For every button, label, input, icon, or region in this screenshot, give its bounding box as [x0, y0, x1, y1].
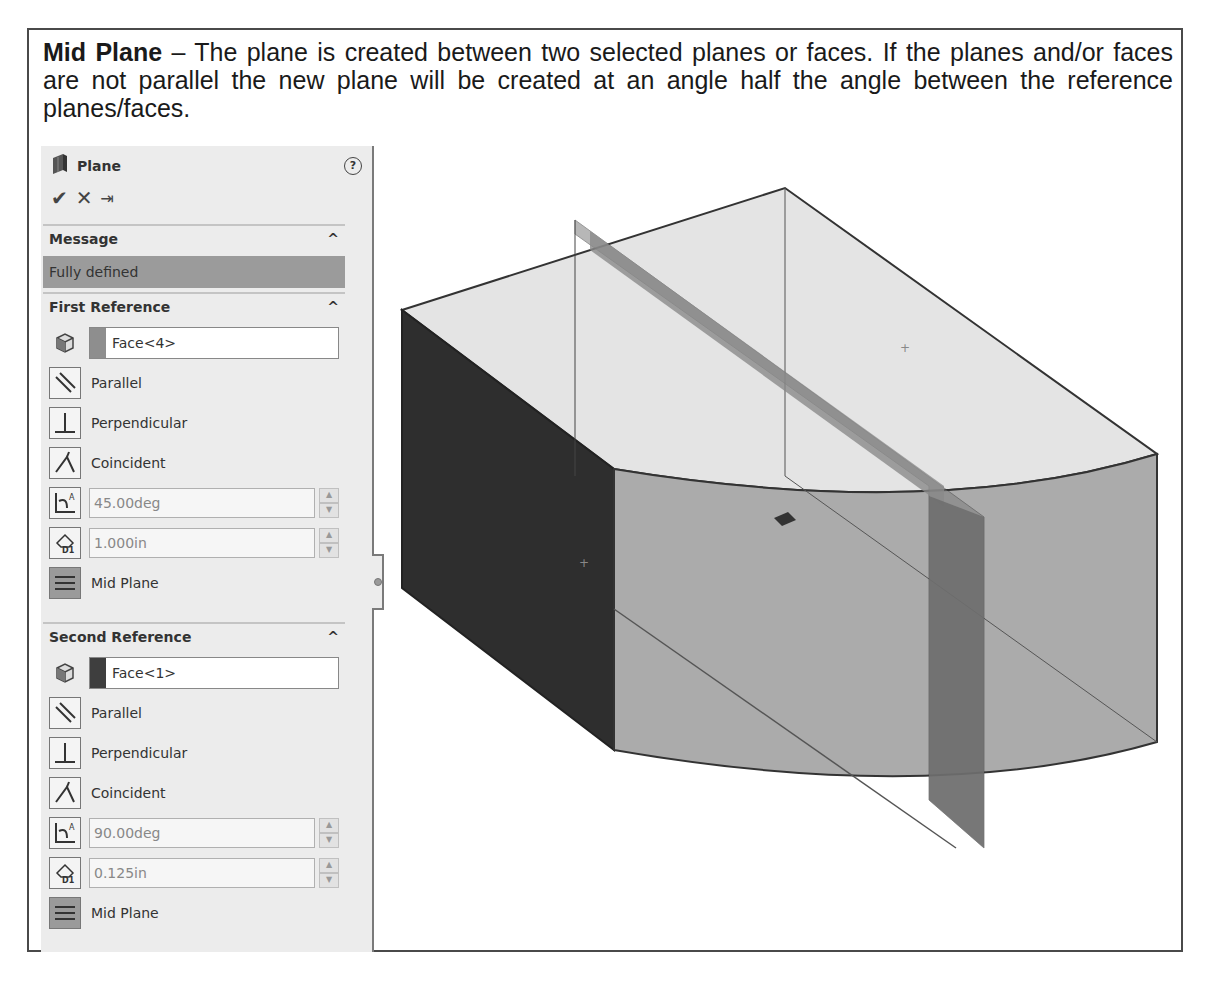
coincident-icon — [49, 447, 81, 479]
spin-up-icon[interactable]: ▲ — [319, 488, 339, 503]
panel-title: Plane — [77, 158, 121, 174]
perpendicular-icon — [49, 407, 81, 439]
mid-plane-icon — [49, 897, 81, 929]
option-label: Coincident — [91, 785, 166, 801]
parallel-icon — [49, 697, 81, 729]
angle-input[interactable]: 45.00deg — [89, 488, 315, 518]
option-mid-plane[interactable]: Mid Plane — [49, 566, 159, 600]
second-reference-header[interactable]: Second Reference ^ — [43, 622, 345, 650]
second-reference-swatch — [90, 658, 106, 688]
collapse-chevron-icon[interactable]: ^ — [327, 299, 339, 315]
second-reference-selection-row — [49, 656, 81, 690]
plane-icon — [51, 153, 69, 179]
angle-input[interactable]: 90.00deg — [89, 818, 315, 848]
first-reference-label: First Reference — [49, 299, 170, 315]
svg-text:+: + — [579, 556, 589, 570]
first-reference-field[interactable]: Face<4> — [89, 327, 339, 359]
angle-icon[interactable]: A — [49, 487, 81, 519]
offset-distance-icon[interactable]: D1 — [49, 857, 81, 889]
angle-row: A — [49, 816, 81, 850]
distance-row: D1 — [49, 526, 81, 560]
distance-spinner[interactable]: ▲▼ — [319, 528, 339, 558]
spin-down-icon[interactable]: ▼ — [319, 503, 339, 518]
option-perpendicular[interactable]: Perpendicular — [49, 406, 187, 440]
panel-header: Plane ? — [51, 154, 362, 178]
option-mid-plane[interactable]: Mid Plane — [49, 896, 159, 930]
collapse-chevron-icon[interactable]: ^ — [327, 231, 339, 247]
second-reference-field[interactable]: Face<1> — [89, 657, 339, 689]
parallel-icon — [49, 367, 81, 399]
cancel-button[interactable]: ✕ — [76, 186, 93, 210]
angle-row: A — [49, 486, 81, 520]
option-parallel[interactable]: Parallel — [49, 696, 142, 730]
option-label: Perpendicular — [91, 415, 187, 431]
spin-down-icon[interactable]: ▼ — [319, 543, 339, 558]
option-coincident[interactable]: Coincident — [49, 776, 166, 810]
angle-icon[interactable]: A — [49, 817, 81, 849]
spin-up-icon[interactable]: ▲ — [319, 858, 339, 873]
angle-spinner[interactable]: ▲▼ — [319, 488, 339, 518]
svg-text:D1: D1 — [62, 876, 75, 885]
first-reference-value: Face<4> — [112, 335, 176, 351]
collapse-chevron-icon[interactable]: ^ — [327, 629, 339, 645]
caption-term: Mid Plane — [43, 38, 162, 66]
spin-down-icon[interactable]: ▼ — [319, 833, 339, 848]
distance-input[interactable]: 1.000in — [89, 528, 315, 558]
first-reference-selection-row — [49, 326, 81, 360]
option-label: Parallel — [91, 375, 142, 391]
option-label: Coincident — [91, 455, 166, 471]
mid-plane-icon — [49, 567, 81, 599]
message-section-header[interactable]: Message ^ — [43, 224, 345, 252]
model-render: + + — [376, 146, 1181, 952]
perpendicular-icon — [49, 737, 81, 769]
option-parallel[interactable]: Parallel — [49, 366, 142, 400]
status-message: Fully defined — [43, 256, 345, 288]
second-reference-value: Face<1> — [112, 665, 176, 681]
svg-text:A: A — [69, 823, 75, 832]
face-selection-icon — [49, 657, 81, 689]
caption-text: – The plane is created between two selec… — [43, 38, 1173, 122]
caption: Mid Plane – The plane is created between… — [43, 38, 1173, 122]
angle-spinner[interactable]: ▲▼ — [319, 818, 339, 848]
svg-text:D1: D1 — [62, 546, 75, 555]
distance-input[interactable]: 0.125in — [89, 858, 315, 888]
option-label: Mid Plane — [91, 575, 159, 591]
first-reference-swatch — [90, 328, 106, 358]
ok-button[interactable]: ✔ — [51, 186, 68, 210]
face-selection-icon — [49, 327, 81, 359]
distance-row: D1 — [49, 856, 81, 890]
spin-down-icon[interactable]: ▼ — [319, 873, 339, 888]
svg-text:+: + — [900, 341, 910, 355]
offset-distance-icon[interactable]: D1 — [49, 527, 81, 559]
graphics-viewport[interactable]: + + — [376, 146, 1181, 952]
second-reference-label: Second Reference — [49, 629, 191, 645]
option-label: Parallel — [91, 705, 142, 721]
figure-frame: Mid Plane – The plane is created between… — [27, 28, 1183, 952]
option-perpendicular[interactable]: Perpendicular — [49, 736, 187, 770]
message-header-label: Message — [49, 231, 118, 247]
spin-up-icon[interactable]: ▲ — [319, 528, 339, 543]
distance-spinner[interactable]: ▲▼ — [319, 858, 339, 888]
coincident-icon — [49, 777, 81, 809]
property-manager-panel: Plane ? ✔ ✕ ⇥ Message ^ Fully defined Fi… — [41, 146, 374, 952]
option-label: Perpendicular — [91, 745, 187, 761]
spin-up-icon[interactable]: ▲ — [319, 818, 339, 833]
pin-button[interactable]: ⇥ — [101, 189, 114, 208]
option-label: Mid Plane — [91, 905, 159, 921]
first-reference-header[interactable]: First Reference ^ — [43, 292, 345, 320]
help-icon[interactable]: ? — [344, 157, 362, 175]
option-coincident[interactable]: Coincident — [49, 446, 166, 480]
action-bar: ✔ ✕ ⇥ — [51, 186, 114, 210]
svg-text:A: A — [69, 493, 75, 502]
